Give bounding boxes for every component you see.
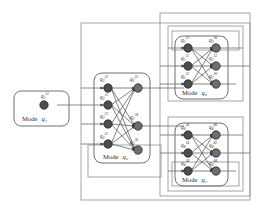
node-q2-22[interactable]: [104, 84, 112, 92]
mode3-nodes-right: [212, 44, 220, 88]
node-q3-13[interactable]: [184, 62, 192, 70]
label-q3-32: q332: [209, 54, 217, 62]
label-q2-21: q221: [100, 132, 108, 140]
label-q4-40: q440: [209, 123, 217, 131]
node-q3-33[interactable]: [184, 80, 192, 88]
node-q2-21[interactable]: [104, 140, 112, 148]
node-q2-12[interactable]: [104, 101, 112, 109]
label-q2-23: q223: [100, 112, 108, 120]
mode3-caption: Modeq₃: [182, 89, 208, 96]
node-q4-34[interactable]: [184, 167, 192, 175]
label-q2-25: q225: [130, 75, 138, 83]
node-q4-42[interactable]: [212, 149, 220, 157]
mode1-caption: Modeq₁: [22, 115, 47, 122]
label-q4-42: q442: [209, 141, 217, 149]
label-q3-33: q333: [181, 72, 189, 80]
label-q3-30: q330: [209, 36, 217, 44]
node-q4-44[interactable]: [212, 167, 220, 175]
node-q2-23[interactable]: [104, 120, 112, 128]
label-q2-12: q212: [100, 93, 108, 101]
node-q2-25[interactable]: [134, 84, 142, 92]
node-q1-12[interactable]: [40, 101, 48, 109]
inter-mode-connectors: [57, 48, 250, 171]
node-q3-32[interactable]: [212, 62, 220, 70]
mode2-nodes-right: [134, 84, 142, 154]
label-q4-14: q414: [181, 141, 189, 149]
node-q3-36[interactable]: [212, 80, 220, 88]
mode-captions: Modeq₁ Modeq₂ Modeq₃ Modeq₄: [22, 89, 208, 183]
mode4-nodes-right: [212, 131, 220, 175]
node-q2-24[interactable]: [134, 122, 142, 130]
mode4-caption: Modeq₄: [182, 176, 208, 183]
mode-graph-svg: q112 q222 q212 q223 q221 q225 q224: [0, 0, 264, 213]
diagram-canvas: q112 q222 q212 q223 q221 q225 q224: [0, 0, 264, 213]
label-q1-12: q112: [41, 92, 49, 100]
label-q3-13: q313: [181, 54, 189, 62]
node-q4-14[interactable]: [184, 149, 192, 157]
outer-right-channel: [160, 13, 250, 196]
node-q3-30[interactable]: [212, 44, 220, 52]
node-q2-26[interactable]: [134, 146, 142, 154]
node-q4-40[interactable]: [212, 131, 220, 139]
mode1-nodes: [40, 101, 48, 109]
node-q4-24[interactable]: [184, 131, 192, 139]
mode2-caption: Modeq₂: [103, 153, 129, 160]
label-q2-22: q222: [100, 75, 108, 83]
mode4-nodes-left: [184, 131, 192, 175]
label-q4-24: q424: [181, 123, 189, 131]
label-q4-34: q434: [181, 159, 189, 167]
label-q3-23: q323: [181, 36, 189, 44]
node-q3-23[interactable]: [184, 44, 192, 52]
mode3-nodes-left: [184, 44, 192, 88]
